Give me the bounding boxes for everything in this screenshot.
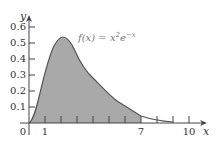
y-axis-label: y	[19, 10, 27, 23]
shaded-area	[29, 37, 141, 123]
svg-text:7: 7	[138, 126, 144, 137]
y-ticks	[29, 27, 35, 107]
svg-text:10: 10	[183, 126, 196, 137]
svg-text:0.3: 0.3	[10, 69, 26, 80]
svg-text:0.4: 0.4	[10, 53, 26, 64]
x-tick-labels: 0 1 7 10	[20, 126, 196, 137]
chart: 0.1 0.2 0.3 0.4 0.5 0.6 0 1 7 10 x y f(x…	[0, 0, 223, 150]
function-label: f(x) = x2e−x	[77, 31, 136, 43]
svg-text:1: 1	[42, 126, 48, 137]
svg-text:0.5: 0.5	[10, 37, 26, 48]
x-axis-label: x	[203, 125, 210, 138]
y-tick-labels: 0.1 0.2 0.3 0.4 0.5 0.6	[10, 21, 26, 112]
svg-text:0.1: 0.1	[10, 101, 26, 112]
svg-text:0.2: 0.2	[10, 85, 26, 96]
svg-text:0: 0	[20, 126, 26, 137]
